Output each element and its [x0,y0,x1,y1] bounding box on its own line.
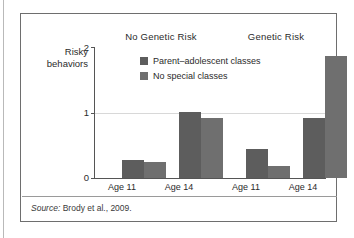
y-tick-label-1: 1 [73,107,89,118]
x-tick-label-panel1-age11: Age 11 [99,182,145,192]
x-tick-label-panel2-age11: Age 11 [223,182,269,192]
y-tick-label-0: 0 [73,172,89,183]
x-tick-label-panel2-age14: Age 14 [280,182,326,192]
figure-container: No Genetic Risk Genetic Risk Risky behav… [20,13,337,222]
bar-no-special-group2 [201,118,223,178]
bar-parent-adolescent-group3 [246,149,268,178]
legend-swatch-icon-series-a [140,57,148,65]
y-tick-mark-2 [91,47,94,48]
x-axis-line [94,178,326,179]
bar-parent-adolescent-group2 [179,112,201,178]
panel-title-no-genetic-risk: No Genetic Risk [106,31,216,42]
y-axis-title-line2: behaviors [25,58,88,70]
legend-label-series-a: Parent–adolescent classes [153,56,261,66]
legend-swatch-icon-series-b [140,72,148,80]
source-note-label: Source: [31,203,60,213]
bar-parent-adolescent-group1 [122,160,144,178]
legend-item-no-special-classes: No special classes [140,69,261,82]
y-tick-mark-1 [91,113,94,114]
legend-item-parent-adolescent-classes: Parent–adolescent classes [140,54,261,67]
source-divider [22,196,337,197]
bar-no-special-group3 [268,166,290,178]
bar-no-special-group4 [325,56,347,178]
bar-parent-adolescent-group4 [303,118,325,178]
panel-title-genetic-risk: Genetic Risk [226,31,326,42]
source-note: Source: Brody et al., 2009. [31,203,132,213]
bar-no-special-group1 [144,162,166,178]
y-tick-label-2: 2 [73,42,89,53]
chart-legend: Parent–adolescent classes No special cla… [140,54,261,84]
y-tick-mark-0 [91,178,94,179]
x-tick-label-panel1-age14: Age 14 [156,182,202,192]
page-gutter-rule [3,0,4,238]
legend-label-series-b: No special classes [153,71,228,81]
source-note-text: Brody et al., 2009. [63,203,132,213]
